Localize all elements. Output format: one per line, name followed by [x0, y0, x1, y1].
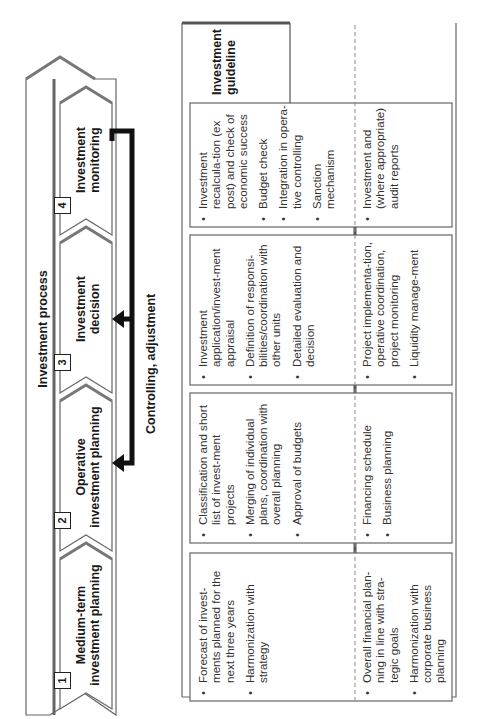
stage-label-2: Operative investment planning [72, 399, 104, 535]
stage-2-line1: Operative [74, 438, 88, 496]
column-3-lower: Project implementa-tion, operative coord… [360, 237, 427, 381]
stage-4-line2: monitoring [88, 127, 102, 192]
column-3-upper: Investment application/invest-ment appra… [196, 237, 323, 381]
list-item: Forecast of invest-ments planned for the… [196, 557, 236, 697]
process-title: Investment process [36, 189, 50, 469]
stage-1-line2: investment planning [88, 564, 102, 686]
stage-3-line2: decision [88, 284, 102, 335]
stage-3-line1: Investment [74, 276, 88, 342]
list-item: Harmonization with corporate business pl… [407, 557, 447, 697]
stage-number-1: 1 [54, 672, 71, 689]
list-item: Financing schedule [360, 395, 373, 539]
controlling-label: Controlling, adjustment [144, 294, 158, 434]
stage-4-line1: Investment [74, 127, 88, 193]
column-1-upper: Forecast of invest-ments planned for the… [196, 557, 276, 697]
investment-process-diagram: Investment process 1 2 3 4 Medium-term i… [0, 0, 478, 719]
list-item: Definition of responsi-bilities/coordina… [243, 237, 283, 381]
list-item: Integration in opera-tive controlling [276, 105, 303, 223]
guideline-label: Investment guideline [210, 29, 238, 95]
list-item: Business planning [380, 395, 393, 539]
stage-label-4: Investment monitoring [72, 101, 104, 219]
stage-1-line1: Medium-term [74, 586, 88, 664]
list-item: Budget check [256, 105, 269, 223]
list-item: Sanction mechanism [310, 105, 337, 223]
list-item: Harmonization with strategy [243, 557, 270, 697]
guideline-label-line1: Investment [210, 29, 224, 95]
list-item: Detailed evaluation and decision [290, 237, 317, 381]
list-item: Liquidity manage-ment [407, 237, 420, 381]
list-item: Merging of individual plans, coordinatio… [243, 395, 283, 539]
list-item: Project implementa-tion, operative coord… [360, 237, 400, 381]
stage-number-2: 2 [54, 512, 71, 529]
column-1-lower: Overall financial plan-ning in line with… [360, 557, 454, 697]
column-4-lower: Investment and (where appropriate) audit… [360, 105, 407, 223]
list-item: Investment and (where appropriate) audit… [360, 105, 400, 223]
list-item: Investment recalcula-tion (ex post) and … [196, 105, 249, 223]
stage-number-4: 4 [54, 197, 71, 214]
stage-label-3: Investment decision [72, 241, 104, 377]
column-2-lower: Financing schedule Business planning [360, 395, 401, 539]
column-2-upper: Classification and short list of invest-… [196, 395, 310, 539]
column-4-upper: Investment recalcula-tion (ex post) and … [196, 105, 344, 223]
list-item: Classification and short list of invest-… [196, 395, 236, 539]
guideline-label-line2: guideline [224, 29, 238, 95]
stage-number-3: 3 [54, 354, 71, 371]
list-item: Overall financial plan-ning in line with… [360, 557, 400, 697]
stage-label-1: Medium-term investment planning [72, 557, 104, 693]
list-item: Approval of budgets [290, 395, 303, 539]
list-item: Investment application/invest-ment appra… [196, 237, 236, 381]
stage-2-line2: investment planning [88, 406, 102, 528]
